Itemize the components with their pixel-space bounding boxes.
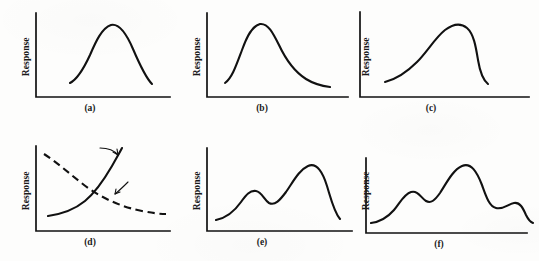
axes-d [36,146,170,231]
panel-a: Response (a) [0,0,180,130]
panel-f-plot [357,128,539,246]
curve-f-response [371,165,533,223]
y-axis-label-a: Response [22,27,32,87]
axes-f [366,158,527,233]
panel-e-plot [180,128,360,246]
panel-letter-e: (e) [172,238,352,248]
curve-d-ordinary [48,148,122,216]
panel-f: Response (f) [357,128,537,258]
y-axis-label-e: Response [193,161,203,221]
panel-letter-a: (a) [0,104,180,114]
panel-letter-c: (c) [341,104,521,114]
y-axis-label-b: Response [193,27,203,87]
y-axis-label-d: Response [22,161,32,221]
panel-b-plot [180,0,360,112]
panel-c-plot [357,0,539,112]
leader-line-reversed [115,182,128,194]
curve-c-response [385,25,488,84]
axes-c [360,12,529,97]
panel-letter-f: (f) [349,240,529,250]
axes-a [36,13,170,97]
curve-d-reversed [44,154,166,214]
panel-c: Response (c) [357,0,537,130]
y-axis-label-c: Response [362,27,372,87]
curve-e-response [216,165,340,220]
y-axis-label-f: Response [362,161,372,221]
response-curve-figure: Response (a) Response (b) Response (c) R… [0,0,539,261]
curve-a-response [70,25,152,84]
panel-letter-b: (b) [172,104,352,114]
panel-e: Response (e) [180,128,360,258]
axes-e [207,148,352,231]
axes-b [207,13,348,97]
panel-letter-d: (d) [0,238,180,248]
panel-d: Response Ordinary Reversed (d) [0,128,180,258]
panel-b: Response (b) [180,0,360,130]
curve-b-response [225,24,330,87]
